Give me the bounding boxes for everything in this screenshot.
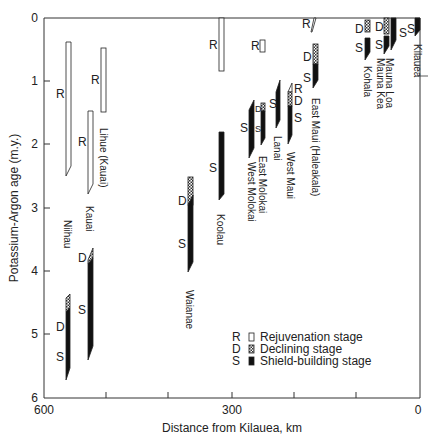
mauna-loa-s-letter: S	[399, 26, 407, 40]
lanai-label: Lanai	[272, 136, 283, 160]
mauna-kea-s-bar	[384, 36, 389, 54]
chart-svg: 0 1 2 3 4 5 6 600 300 0 Distance from Ki…	[0, 0, 435, 438]
y-tick-0: 0	[31, 11, 38, 25]
koolau-label: Koolau	[215, 214, 226, 245]
legend-s-label: Shield-building stage	[260, 354, 372, 368]
east-molokai-label: East Molokai	[257, 156, 268, 213]
y-tick-1: 1	[31, 74, 38, 88]
kauai-s-letter: S	[78, 303, 86, 317]
east-maui-s-bar	[313, 64, 318, 88]
chart-container: 0 1 2 3 4 5 6 600 300 0 Distance from Ki…	[0, 0, 435, 438]
niihau-d-letter: D	[56, 320, 65, 334]
west-molokai-s-bar	[249, 100, 254, 158]
kilauea-s-bar	[415, 18, 420, 36]
niihau-r-letter: R	[56, 87, 65, 101]
west-molokai-label: West Molokai	[246, 162, 257, 222]
legend-r-swatch	[249, 333, 254, 341]
y-tick-5: 5	[31, 327, 38, 341]
east-molokai-s-letter: S	[255, 124, 261, 134]
niihau-s-letter: S	[56, 350, 64, 364]
east-molokai-r-letter: R	[251, 39, 260, 53]
y-axis-ticks	[44, 81, 50, 334]
kauai-r-letter: R	[78, 135, 87, 149]
waianae-s-bar	[188, 195, 193, 272]
kohala-d-letter: D	[355, 22, 364, 36]
mauna-kea-d-letter: D	[375, 20, 384, 34]
niihau-s-bar	[66, 308, 70, 380]
east-molokai-d-letter: D	[255, 104, 262, 114]
legend-s-swatch	[249, 357, 254, 365]
mauna-loa-s-bar	[391, 18, 396, 50]
legend-item-shield: S Shield-building stage	[232, 354, 372, 368]
x-axis-tick-labels: 600 300 0	[34, 403, 422, 417]
niihau-label: Niihau	[62, 220, 73, 248]
waianae-d-letter: D	[178, 194, 187, 208]
x-tick-600: 600	[34, 403, 54, 417]
kohala-label: Kohala	[362, 66, 373, 98]
east-molokai-r-bar	[260, 40, 265, 52]
east-maui-r-letter: R	[302, 17, 311, 31]
east-maui-d-letter: D	[303, 50, 312, 64]
west-maui-r-bar	[288, 83, 292, 92]
east-molokai-s-bar	[261, 111, 265, 145]
east-molokai-d-bar	[261, 103, 265, 111]
y-axis-label: Potassium-Argon age (m.y.)	[7, 134, 21, 283]
stage-letters: R D S R D S R D S R S S R D S S R D S R …	[56, 17, 415, 364]
x-tick-0: 0	[415, 403, 422, 417]
kauai-r-bar	[88, 111, 93, 194]
mauna-kea-s-letter: S	[375, 38, 383, 52]
koolau-s-bar	[219, 132, 224, 200]
lihue-r-letter: R	[91, 73, 100, 87]
kauai-label: Kauai	[84, 206, 95, 232]
west-maui-label: West Maui	[285, 152, 296, 199]
east-maui-d-bar	[313, 44, 318, 64]
mauna-kea-d-bar	[384, 18, 389, 34]
volcano-names: Niihau Kauai Lihue (Kauai) Waianae Koola…	[62, 44, 428, 330]
kohala-s-letter: S	[355, 41, 363, 55]
x-tick-300: 300	[222, 403, 242, 417]
east-maui-s-letter: S	[303, 71, 311, 85]
kilauea-s-letter: S	[407, 22, 415, 36]
kauai-d-letter: D	[78, 251, 87, 265]
lihue-r-bar	[101, 48, 106, 112]
west-maui-d-bar	[288, 92, 292, 106]
koolau-r-bar	[219, 18, 224, 71]
koolau-r-letter: R	[209, 38, 218, 52]
y-tick-2: 2	[31, 137, 38, 151]
kohala-s-bar	[365, 38, 370, 60]
y-axis-tick-labels: 0 1 2 3 4 5 6	[31, 11, 38, 405]
lihue-label: Lihue (Kauai)	[98, 128, 109, 187]
legend-d-swatch	[249, 345, 254, 353]
lanai-s-letter: S	[269, 97, 277, 111]
kilauea-label: Kilauea	[412, 44, 423, 78]
y-tick-3: 3	[31, 201, 38, 215]
x-axis-ticks	[106, 392, 356, 398]
west-maui-d-letter: D	[294, 94, 303, 108]
y-tick-4: 4	[31, 264, 38, 278]
niihau-r-bar	[66, 42, 71, 176]
west-molokai-s-letter: S	[240, 121, 248, 135]
waianae-s-letter: S	[178, 237, 186, 251]
kauai-s-bar	[88, 258, 93, 360]
east-maui-label: East Maui (Haleakala)	[310, 98, 321, 196]
west-maui-s-letter: S	[294, 111, 302, 125]
kohala-d-bar	[365, 20, 370, 32]
waianae-label: Waianae	[184, 290, 195, 330]
koolau-s-letter: S	[209, 161, 217, 175]
legend-s-code: S	[232, 354, 240, 368]
west-maui-s-bar	[288, 106, 292, 144]
mauna-kea-label: Mauna Kea	[375, 58, 386, 110]
x-axis-label: Distance from Kilauea, km	[162, 421, 302, 435]
legend: R Rejuvenation stage D Declining stage S…	[232, 330, 372, 368]
east-maui-r-bar	[311, 18, 316, 32]
